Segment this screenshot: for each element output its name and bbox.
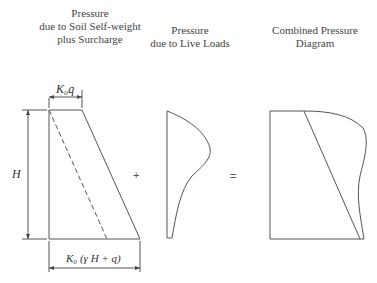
plus-sign: + [133,169,139,181]
bottom-width-label: K₀ (γ H + q) [65,252,121,265]
pressure-diagram: K₀q H K₀ (γ H + q) + = [0,0,377,283]
dashed-line [49,110,107,239]
equals-sign: = [230,170,236,182]
soil-pressure-diagram [22,90,140,272]
combined-pressure-diagram [270,111,366,239]
live-load-diagram [167,111,210,238]
height-label: H [11,167,22,181]
top-width-label: K₀q [55,82,74,96]
